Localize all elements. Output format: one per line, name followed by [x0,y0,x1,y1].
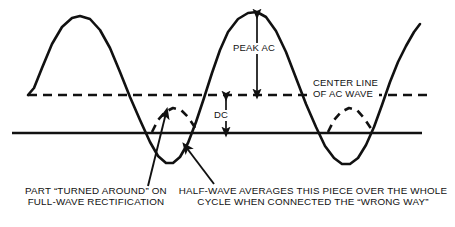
caption-left-line2: FULL-WAVE RECTIFICATION [8,197,184,208]
rectified-arc-first [152,108,198,133]
peak-ac-label: PEAK AC [232,43,276,54]
center-line-label: CENTER LINE OF AC WAVE [312,78,379,99]
rectified-arc-second [328,108,374,133]
leader-arrow-to-rectified-arc [148,113,166,186]
dc-label: DC [213,110,229,121]
leader-arrow-to-negative-half-cycle [186,147,214,184]
caption-right-line2: CYCLE WHEN CONNECTED THE “WRONG WAY” [176,197,450,208]
caption-full-wave-rectification: PART “TURNED AROUND” ON FULL-WAVE RECTIF… [8,186,184,208]
center-line-label-line2: OF AC WAVE [313,89,378,100]
waveform-diagram: PEAK AC DC CENTER LINE OF AC WAVE PART “… [0,0,455,227]
caption-half-wave-average: HALF-WAVE AVERAGES THIS PIECE OVER THE W… [176,186,450,208]
